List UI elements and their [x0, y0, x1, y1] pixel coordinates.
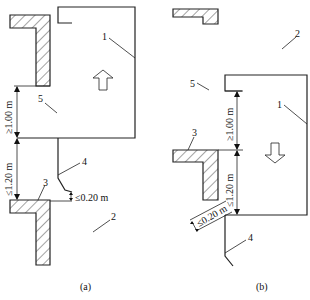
lower-landing-sill-a [10, 200, 50, 265]
label-sill-a: 3 [43, 177, 48, 188]
leader-2-b [282, 37, 296, 49]
label-gap-zone-b: 5 [190, 78, 195, 89]
label-landing-b: 2 [295, 28, 300, 39]
caption-a: (a) [80, 281, 91, 293]
upper-landing-sill-b [173, 9, 218, 24]
label-gap-zone-a: 5 [38, 93, 43, 104]
label-sill-b: 3 [192, 127, 197, 138]
dim-label-upper-b: ≥1.00 m [224, 108, 235, 141]
panel-a: ≥1.00 m ≤1.20 m ≤0.20 m 1 5 4 3 2 (a) [3, 7, 135, 293]
dim-label-apron-a: ≤0.20 m [75, 192, 108, 203]
leader-4-b [225, 240, 246, 253]
label-apron-b: 4 [248, 232, 253, 243]
label-car-b: 1 [277, 99, 282, 110]
leader-5-a [45, 103, 57, 113]
leader-4-a [58, 163, 80, 175]
dim-label-upper-a: ≥1.00 m [3, 101, 14, 134]
label-landing-a: 2 [111, 211, 116, 222]
caption-b: (b) [256, 281, 268, 293]
lower-landing-sill-b [173, 150, 218, 200]
dim-label-apron-b: ≤0.20 m [195, 202, 230, 228]
car-apron-b [225, 215, 233, 266]
leader-1-b [284, 105, 307, 124]
elevator-clearance-diagram: ≥1.00 m ≤1.20 m ≤0.20 m 1 5 4 3 2 (a) 2 [0, 0, 310, 300]
leader-3-b [188, 137, 194, 150]
leader-1-a [109, 38, 135, 58]
down-arrow-icon [265, 143, 285, 163]
label-apron-a: 4 [82, 156, 87, 167]
leader-5-b [197, 83, 209, 90]
up-arrow-icon [93, 70, 113, 90]
dim-label-lower-b: ≤1.20 m [224, 174, 235, 207]
upper-landing-sill-a [10, 15, 50, 86]
dim-label-lower-a: ≤1.20 m [3, 163, 14, 196]
label-car-a: 1 [102, 31, 107, 42]
car-apron-a [58, 138, 72, 192]
panel-b: 2 ≥1.00 m ≤1.20 m ≤0.20 m 5 1 3 4 ( [173, 9, 307, 293]
leader-2-a [93, 220, 110, 232]
